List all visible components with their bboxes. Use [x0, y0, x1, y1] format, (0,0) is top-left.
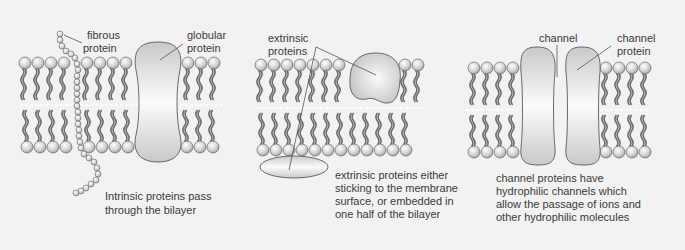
label-extrinsic-proteins: proteins [268, 45, 308, 57]
channel-protein-right-shape [566, 47, 600, 165]
caption-intrinsic-line1: Intrinsic proteins pass [105, 190, 212, 202]
fibrous-leader-line [64, 35, 82, 43]
label-channel: channel [539, 32, 578, 44]
bilayer-top-leaflet [468, 62, 651, 105]
label-fibrous: fibrous [87, 29, 121, 41]
diagram-canvas: fibrous protein globular protein Intrins… [0, 0, 685, 250]
label-globular-protein: protein [187, 42, 221, 54]
label-channel-protein-1: channel [617, 32, 656, 44]
bilayer-bottom-leaflet [21, 110, 219, 153]
panel-channel-proteins: channel channel protein channel proteins… [466, 32, 656, 223]
caption-channel-line4: other hydrophilic molecules [496, 211, 630, 223]
label-extrinsic: extrinsic [268, 32, 309, 44]
membrane-protein-diagram: fibrous protein globular protein Intrins… [0, 0, 685, 250]
bilayer-bottom-leaflet [257, 113, 412, 156]
bilayer-bottom-leaflet [468, 115, 651, 158]
panel-extrinsic-proteins: extrinsic proteins extrinsic proteins ei… [255, 32, 458, 220]
caption-extrinsic-line2: sticking to the membrane [335, 182, 458, 194]
label-channel-protein-2: protein [617, 45, 651, 57]
extrinsic-protein-bottom-shape [260, 156, 328, 178]
caption-channel-line1: channel proteins have [496, 172, 604, 184]
caption-extrinsic-line4: one half of the bilayer [335, 208, 441, 220]
bilayer-top-leaflet [19, 57, 220, 100]
panel-intrinsic-proteins: fibrous protein globular protein Intrins… [19, 29, 226, 216]
caption-intrinsic-line2: through the bilayer [105, 204, 196, 216]
label-fibrous-protein: protein [83, 42, 117, 54]
caption-channel-line3: allow the passage of ions and [496, 198, 641, 210]
caption-channel-line2: hydrophilic channels which [496, 185, 627, 197]
caption-extrinsic-line3: surface, or embedded in [335, 195, 454, 207]
label-globular: globular [187, 29, 226, 41]
channel-protein-left-shape [521, 47, 555, 165]
caption-extrinsic-line1: extrinsic proteins either [335, 169, 448, 181]
globular-protein-shape [135, 42, 181, 162]
extrinsic-protein-top-shape [350, 53, 400, 103]
